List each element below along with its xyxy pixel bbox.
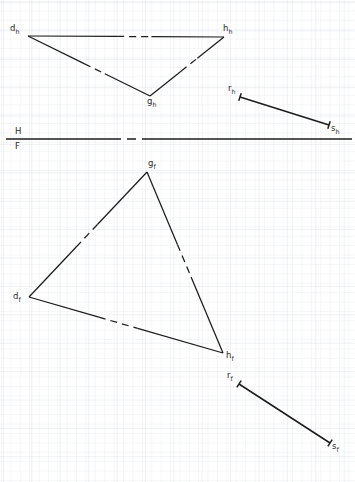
label-d-h: dh [10, 24, 20, 35]
drawing-canvas: dh hh gh rh sh H F gf df hf rf sf [0, 0, 355, 482]
label-f-plane: F [15, 142, 20, 151]
front-view-edge-g_f-h_f-part1 [147, 172, 177, 244]
top-view-edge-d_h-g_h-dashed [84, 64, 105, 74]
front-view-edge-d_f-g_f-dashed [76, 225, 97, 248]
top-view-edge-g_h-h_h-part2 [197, 37, 224, 58]
label-g-f: gf [148, 159, 156, 170]
front-view-edge-d_f-g_f-part2 [97, 172, 147, 225]
top-view-edge-g_h-h_h-dashed [181, 58, 197, 71]
front-view-edge-d_f-h_f-dashed [99, 317, 138, 328]
label-h-f: hf [226, 351, 234, 362]
label-h-plane: H [15, 127, 22, 136]
front-view-edge-d_f-h_f-part1 [29, 297, 99, 317]
top-view-edge-d_h-g_h-part2 [105, 74, 150, 96]
label-d-f: df [13, 292, 21, 303]
label-r-f: rf [227, 371, 233, 382]
front-view-edge-d_f-g_f-part1 [29, 247, 76, 297]
label-h-h: hh [223, 24, 233, 35]
label-g-h: gh [147, 97, 157, 108]
label-s-h: sh [331, 124, 340, 135]
front-view-edge-d_f-h_f-part2 [138, 328, 223, 353]
label-s-f: sf [332, 442, 339, 453]
top-view-edge-d_h-g_h-part1 [28, 36, 84, 64]
front-view-segment-r_f-s_f [239, 384, 330, 443]
geometry-drawing-svg [0, 0, 355, 482]
top-view-edge-g_h-h_h-part1 [150, 71, 181, 96]
front-view-edge-g_f-h_f-dashed [177, 244, 191, 277]
front-view-edge-g_f-h_f-part2 [191, 277, 223, 353]
top-view-segment-r_h-s_h [240, 97, 329, 125]
front-view-tick-r_f [237, 381, 241, 388]
label-r-h: rh [228, 84, 236, 95]
